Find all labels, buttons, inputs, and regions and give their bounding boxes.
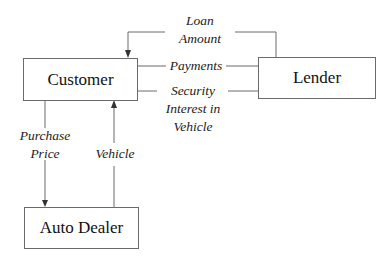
auto-dealer-box: Auto Dealer: [24, 207, 139, 249]
lender-label: Lender: [293, 68, 341, 88]
payments-label: Payments: [164, 57, 228, 75]
purchase-price-label: Purchase Price: [12, 127, 78, 163]
auto-dealer-label: Auto Dealer: [40, 218, 124, 238]
financing-diagram: Customer Lender Auto Dealer Loan Amount …: [0, 0, 392, 263]
arrowhead-down-icon: [42, 200, 48, 207]
arrowhead-down-icon: [125, 50, 131, 58]
security-interest-label: Security Interest in Vehicle: [155, 82, 231, 136]
customer-box: Customer: [23, 58, 138, 101]
customer-label: Customer: [47, 70, 113, 90]
loan-amount-label: Loan Amount: [165, 12, 235, 48]
lender-box: Lender: [258, 57, 376, 99]
vehicle-label: Vehicle: [90, 145, 140, 163]
arrowhead-up-icon: [111, 100, 117, 108]
